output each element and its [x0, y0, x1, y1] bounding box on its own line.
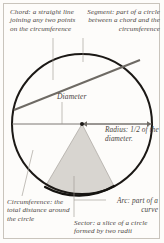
circle-diagram-page: Chord: a straight line joining any two p… [0, 0, 164, 243]
sector-shape [45, 124, 114, 196]
caption-diameter: Diameter [57, 93, 109, 102]
caption-radius: Radius: 1/2 of the diameter. [105, 126, 159, 143]
caption-circumference: Circumference: the total distance around… [7, 198, 75, 223]
caption-chord: Chord: a straight line joining any two p… [10, 8, 76, 33]
chord-line [14, 60, 140, 110]
caption-arc: Arc: part of a curve [108, 197, 158, 214]
caption-sector: Sector: a slice of a circle formed by tw… [74, 219, 160, 236]
caption-segment: Segment: part of a circle between a chor… [84, 8, 160, 33]
circle-centre-dot [80, 122, 84, 126]
